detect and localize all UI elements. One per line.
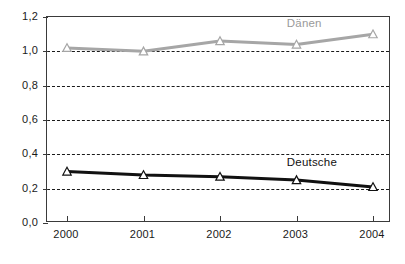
line-chart: 0,00,20,40,60,81,01,2 200020012002200320… bbox=[0, 0, 405, 264]
series-label-danen: Dänen bbox=[287, 17, 322, 29]
series-label-deutsche: Deutsche bbox=[287, 156, 337, 168]
y-axis-label-0-0: 0,0 bbox=[0, 216, 38, 228]
y-axis-label-1-2: 1,2 bbox=[0, 10, 38, 22]
x-axis-label-2001: 2001 bbox=[130, 228, 155, 240]
plot-area bbox=[46, 16, 390, 222]
y-axis-label-0-4: 0,4 bbox=[0, 147, 38, 159]
series-plot bbox=[47, 17, 391, 223]
x-axis-label-2004: 2004 bbox=[359, 228, 384, 240]
x-axis-label-2002: 2002 bbox=[206, 228, 231, 240]
x-axis-label-2003: 2003 bbox=[283, 228, 308, 240]
y-axis-label-0-8: 0,8 bbox=[0, 79, 38, 91]
y-tick-0-0 bbox=[43, 223, 48, 224]
y-axis-label-0-6: 0,6 bbox=[0, 113, 38, 125]
y-axis-label-0-2: 0,2 bbox=[0, 182, 38, 194]
y-axis-label-1-0: 1,0 bbox=[0, 44, 38, 56]
x-axis-label-2000: 2000 bbox=[53, 228, 78, 240]
